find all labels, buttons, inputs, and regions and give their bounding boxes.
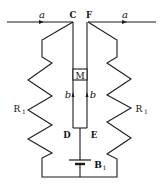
label-battery: B 1	[94, 160, 106, 171]
label-node-f: F	[86, 10, 92, 20]
label-node-d: D	[63, 130, 71, 140]
label-current-b-right: b	[90, 89, 96, 100]
top-left-wire	[7, 20, 73, 24]
top-right-wire	[88, 20, 156, 24]
resistor-right	[80, 22, 131, 177]
battery-symbol	[69, 160, 91, 164]
svg-text:B: B	[94, 160, 102, 170]
label-current-b-left: b	[65, 89, 71, 100]
label-resistor-right: R 1	[136, 104, 148, 115]
meter-label: M	[75, 71, 84, 81]
svg-text:R: R	[14, 104, 21, 114]
label-current-a-left: a	[39, 9, 45, 20]
arrow-up-icon	[72, 92, 75, 97]
svg-text:1: 1	[144, 108, 148, 115]
svg-text:1: 1	[22, 108, 26, 115]
arrow-icon	[39, 20, 44, 24]
label-node-c: C	[70, 10, 77, 20]
arrow-up-icon	[86, 92, 89, 97]
label-current-a-right: a	[122, 9, 128, 20]
arrow-icon	[122, 20, 127, 24]
meter-box: M	[73, 69, 87, 81]
resistor-left	[28, 22, 80, 177]
label-resistor-left: R 1	[14, 104, 26, 115]
circuit-diagram: M a a C F b b D E R 1 R 1 B 1	[0, 0, 164, 185]
label-node-e: E	[91, 130, 98, 140]
svg-text:1: 1	[103, 164, 107, 171]
svg-text:R: R	[136, 104, 143, 114]
